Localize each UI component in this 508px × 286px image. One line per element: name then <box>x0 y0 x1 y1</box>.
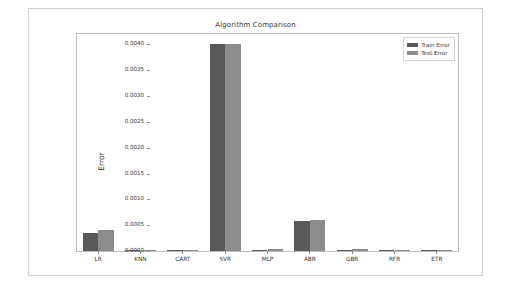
legend-label: Train Error <box>421 42 450 48</box>
x-tick-label: ETR <box>415 256 459 262</box>
y-tick-label: 0.0040 <box>125 40 144 46</box>
bar-mlp-test-error <box>268 249 284 251</box>
x-tick-label: ABR <box>288 256 332 262</box>
bar-svr-train-error <box>210 44 226 251</box>
bar-lr-train-error <box>83 233 99 251</box>
bar-etr-test-error <box>437 250 453 251</box>
x-tick-mark <box>394 251 395 254</box>
plot-area: Error 0.00000.00050.00100.00150.00200.00… <box>76 33 459 252</box>
x-tick-mark <box>267 251 268 254</box>
y-tick-mark <box>147 148 150 149</box>
bar-rfr-test-error <box>395 250 411 251</box>
bar-cart-train-error <box>167 250 183 251</box>
plot-inner: 0.00000.00050.00100.00150.00200.00250.00… <box>77 34 458 251</box>
y-tick-mark <box>147 44 150 45</box>
y-tick-mark <box>147 251 150 252</box>
x-tick-mark <box>352 251 353 254</box>
bar-mlp-train-error <box>252 250 268 251</box>
bar-svr-test-error <box>225 44 241 251</box>
y-tick-label: 0.0035 <box>125 66 144 72</box>
legend-item: Train Error <box>407 41 450 49</box>
figure-canvas: Algorithm Comparison Error 0.00000.00050… <box>0 0 508 286</box>
bar-rfr-train-error <box>379 250 395 251</box>
y-tick-label: 0.0025 <box>125 118 144 124</box>
x-tick-mark <box>309 251 310 254</box>
y-tick-mark <box>147 96 150 97</box>
x-tick-label: GBR <box>330 256 374 262</box>
x-tick-mark <box>140 251 141 254</box>
x-tick-label: CART <box>161 256 205 262</box>
x-tick-label: LR <box>76 256 120 262</box>
x-tick-label: KNN <box>119 256 163 262</box>
x-tick-mark <box>436 251 437 254</box>
legend-swatch <box>407 51 418 55</box>
y-tick-mark <box>147 174 150 175</box>
bar-knn-train-error <box>125 250 141 251</box>
y-tick-label: 0.0010 <box>125 195 144 201</box>
bar-gbr-test-error <box>352 249 368 251</box>
y-tick-mark <box>147 70 150 71</box>
x-tick-label: RFR <box>373 256 417 262</box>
bar-abr-test-error <box>310 220 326 251</box>
x-tick-label: MLP <box>246 256 290 262</box>
bar-gbr-train-error <box>337 250 353 251</box>
legend-swatch <box>407 43 418 47</box>
x-tick-mark <box>225 251 226 254</box>
chart-legend: Train ErrorTest Error <box>403 37 455 61</box>
y-tick-mark <box>147 225 150 226</box>
bar-cart-test-error <box>183 250 199 251</box>
bar-etr-train-error <box>421 250 437 251</box>
chart-title: Algorithm Comparison <box>28 21 483 29</box>
bar-abr-train-error <box>294 221 310 251</box>
y-tick-label: 0.0005 <box>125 221 144 227</box>
x-tick-label: SVR <box>203 256 247 262</box>
x-tick-mark <box>98 251 99 254</box>
y-tick-label: 0.0015 <box>125 170 144 176</box>
y-tick-mark <box>147 122 150 123</box>
x-tick-mark <box>182 251 183 254</box>
y-tick-mark <box>147 199 150 200</box>
y-tick-label: 0.0030 <box>125 92 144 98</box>
legend-label: Test Error <box>421 50 447 56</box>
y-tick-label: 0.0020 <box>125 144 144 150</box>
bar-lr-test-error <box>98 230 114 251</box>
legend-item: Test Error <box>407 49 450 57</box>
bar-knn-test-error <box>141 250 157 251</box>
